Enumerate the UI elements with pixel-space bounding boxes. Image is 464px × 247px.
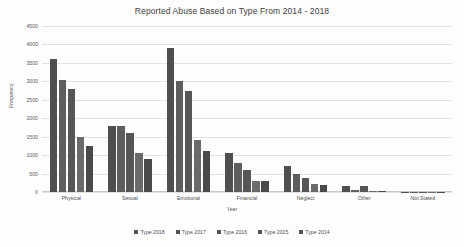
bar[interactable] [378, 191, 386, 192]
y-axis-title: Frequency [8, 83, 14, 108]
y-axis-tick-label: 4500 [26, 23, 38, 29]
gridline: 0 [42, 192, 452, 193]
x-axis-tick-labels: PhysicalSexualEmotionalFinancialNeglectO… [42, 195, 452, 201]
legend-swatch-icon [258, 230, 262, 234]
bar[interactable] [185, 91, 193, 192]
x-axis-tick-label: Physical [42, 195, 101, 201]
y-axis-tick-label: 2500 [26, 97, 38, 103]
y-axis-tick-label: 500 [29, 171, 38, 177]
chart-legend: Type 2018Type 2017Type 2016Type 2015Type… [0, 229, 464, 235]
bar[interactable] [293, 174, 301, 192]
legend-swatch-icon [299, 230, 303, 234]
y-axis-tick-label: 1500 [26, 134, 38, 140]
legend-label: Type 2016 [223, 229, 247, 235]
legend-item[interactable]: Type 2014 [299, 229, 329, 235]
bar[interactable] [234, 163, 242, 193]
x-axis-tick-label: Financial [218, 195, 277, 201]
bar[interactable] [351, 190, 359, 192]
bar[interactable] [360, 186, 368, 192]
bar[interactable] [284, 166, 292, 192]
legend-item[interactable]: Type 2017 [176, 229, 206, 235]
legend-item[interactable]: Type 2016 [217, 229, 247, 235]
x-axis-title: Year [0, 206, 464, 212]
bar[interactable] [117, 126, 125, 192]
y-axis-tick-label: 3500 [26, 60, 38, 66]
bar[interactable] [243, 170, 251, 192]
x-axis-tick-label: Neglect [276, 195, 335, 201]
bar[interactable] [194, 140, 202, 192]
legend-label: Type 2018 [140, 229, 164, 235]
legend-label: Type 2015 [264, 229, 288, 235]
bar[interactable] [369, 191, 377, 192]
bar-group [159, 26, 218, 192]
y-axis-tick-label: 3000 [26, 78, 38, 84]
x-axis-tick-label: Emotional [159, 195, 218, 201]
bar[interactable] [252, 181, 260, 192]
bar[interactable] [261, 181, 269, 192]
bar[interactable] [144, 159, 152, 192]
bar[interactable] [50, 59, 58, 192]
chart-container: Reported Abuse Based on Type From 2014 -… [0, 0, 464, 247]
legend-item[interactable]: Type 2018 [134, 229, 164, 235]
chart-title: Reported Abuse Based on Type From 2014 -… [0, 6, 464, 16]
bar[interactable] [302, 178, 310, 192]
legend-swatch-icon [134, 230, 138, 234]
bar-group [393, 26, 452, 192]
bar-groups [42, 26, 452, 192]
bar-group [42, 26, 101, 192]
x-axis-tick-label: Other [335, 195, 394, 201]
legend-swatch-icon [176, 230, 180, 234]
legend-label: Type 2017 [182, 229, 206, 235]
plot-area: 450040003500300025002000150010005000 [42, 26, 452, 192]
bar-group [101, 26, 160, 192]
y-axis-tick-label: 0 [35, 189, 38, 195]
bar[interactable] [225, 153, 233, 192]
x-axis-tick-label: Not Stated [393, 195, 452, 201]
bar[interactable] [59, 80, 67, 193]
y-axis-tick-label: 4000 [26, 41, 38, 47]
bar[interactable] [311, 184, 319, 192]
legend-swatch-icon [217, 230, 221, 234]
bar[interactable] [320, 185, 328, 192]
bar[interactable] [167, 48, 175, 192]
y-axis-tick-label: 1000 [26, 152, 38, 158]
bar[interactable] [176, 81, 184, 192]
bar[interactable] [77, 137, 85, 192]
legend-label: Type 2014 [305, 229, 329, 235]
bar[interactable] [86, 146, 94, 192]
bar-group [276, 26, 335, 192]
bar[interactable] [203, 151, 211, 192]
bar-group [218, 26, 277, 192]
legend-item[interactable]: Type 2015 [258, 229, 288, 235]
bar[interactable] [108, 126, 116, 192]
bar[interactable] [126, 133, 134, 192]
bar-group [335, 26, 394, 192]
bar[interactable] [135, 153, 143, 192]
bar[interactable] [342, 186, 350, 192]
x-axis-tick-label: Sexual [101, 195, 160, 201]
y-axis-tick-label: 2000 [26, 115, 38, 121]
bar[interactable] [68, 89, 76, 192]
